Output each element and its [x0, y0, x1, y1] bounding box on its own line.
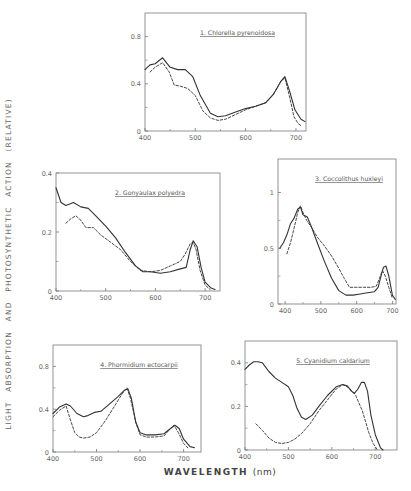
y-tick-label: 0.2	[42, 229, 52, 237]
spectra-plots: 40050060070000.40.81. Chlorella pyrenoid…	[0, 0, 411, 491]
x-tick-label: 700	[369, 453, 381, 461]
x-tick-label: 600	[149, 294, 161, 302]
x-tick-label: 500	[90, 455, 102, 463]
y-tick-label: 0.5	[264, 245, 274, 253]
y-tick-label: 0	[137, 128, 141, 136]
x-tick-label: 500	[99, 294, 111, 302]
panel-title: 1. Chlorella pyrenoidosa	[200, 29, 275, 37]
action-spectrum-curve	[150, 63, 302, 127]
chart-panel-5: 40050060070000.20.45. Cyanidium caldariu…	[231, 341, 397, 461]
figure: 40050060070000.40.81. Chlorella pyrenoid…	[0, 0, 411, 491]
absorption-curve	[245, 362, 383, 450]
absorption-curve	[145, 58, 305, 122]
x-tick-label: 600	[239, 134, 251, 142]
x-axis-label-text: WAVELENGTH	[164, 467, 248, 477]
y-tick-label: 0	[237, 447, 241, 455]
x-tick-label: 700	[199, 294, 211, 302]
chart-panel-2: 40050060070000.20.42. Gonyaulax polyedra	[42, 170, 220, 303]
x-tick-label: 700	[290, 134, 302, 142]
y-tick-label: 0.8	[39, 363, 49, 371]
y-tick-label: 0.4	[131, 80, 141, 88]
absorption-curve	[53, 389, 195, 448]
x-axis-label-unit: (nm)	[253, 467, 277, 477]
y-tick-label: 0.4	[231, 359, 241, 367]
absorption-curve	[280, 207, 396, 300]
action-spectrum-curve	[53, 388, 189, 449]
y-tick-label: 0.2	[231, 403, 241, 411]
absorption-curve	[56, 188, 215, 290]
x-tick-label: 600	[350, 307, 362, 315]
x-tick-label: 600	[326, 453, 338, 461]
y-tick-label: 0.4	[39, 406, 49, 414]
chart-panel-1: 40050060070000.40.81. Chlorella pyrenoid…	[131, 13, 306, 142]
panel-title: 2. Gonyaulax polyedra	[115, 189, 185, 197]
action-spectrum-curve	[287, 206, 393, 299]
x-tick-label: 700	[386, 307, 398, 315]
action-spectrum-curve	[256, 385, 378, 450]
chart-panel-3: 40050060070000.513. Coccolithus huxleyi	[264, 159, 399, 315]
y-tick-label: 0	[48, 288, 52, 296]
y-tick-label: 0.4	[42, 170, 52, 178]
panel-title: 5. Cyanidium caldarium	[296, 357, 370, 365]
x-axis-label: WAVELENGTH (nm)	[150, 467, 290, 477]
x-tick-label: 500	[315, 307, 327, 315]
x-tick-label: 500	[282, 453, 294, 461]
x-tick-label: 400	[279, 307, 291, 315]
y-tick-label: 0	[270, 301, 274, 309]
panel-title: 3. Coccolithus huxleyi	[315, 175, 383, 183]
x-tick-label: 600	[134, 455, 146, 463]
panel-title: 4. Phormidium ectocarpii	[100, 361, 178, 369]
x-tick-label: 500	[189, 134, 201, 142]
y-tick-label: 1	[270, 189, 274, 197]
chart-panel-4: 40050060070000.40.84. Phormidium ectocar…	[39, 345, 201, 463]
action-spectrum-curve	[66, 216, 210, 290]
y-tick-label: 0.8	[131, 33, 141, 41]
y-tick-label: 0	[45, 449, 49, 457]
y-axis-label: LIGHT ABSORPTION AND PHOTOSYNTHETIC ACTI…	[4, 84, 16, 444]
x-tick-label: 700	[177, 455, 189, 463]
